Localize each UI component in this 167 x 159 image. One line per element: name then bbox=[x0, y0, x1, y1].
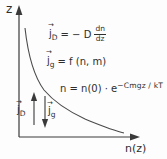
derivative-fraction: dn dz bbox=[94, 25, 106, 43]
down-arrowhead bbox=[42, 119, 48, 128]
flux-subscript: D bbox=[20, 109, 26, 118]
equation-barometric: n = n(0) · e−Cmgz / kT bbox=[60, 81, 163, 94]
y-axis-arrowhead bbox=[16, 5, 23, 15]
vector-arrow-icon: → bbox=[47, 100, 53, 107]
vector-arrow-icon: → bbox=[48, 22, 54, 29]
flux-subscript: g bbox=[50, 60, 55, 69]
barometric-base: n = n(0) · e bbox=[60, 83, 117, 94]
sedimentation-diffusion-diagram: z n(z) →jD = − D dn dz →jg = f (n, m) n … bbox=[0, 0, 167, 159]
vector-arrow-icon: → bbox=[16, 99, 22, 106]
equation-diffusion-flux: →jD = − D dn dz bbox=[49, 25, 106, 43]
diffusion-flux-up-arrow bbox=[31, 92, 37, 125]
x-axis-label: n(z) bbox=[125, 143, 146, 154]
vector-arrow-icon: → bbox=[46, 49, 52, 56]
equation-middle: = − D bbox=[61, 29, 92, 40]
y-axis-label: z bbox=[6, 3, 12, 15]
flux-subscript: g bbox=[51, 110, 56, 119]
equation-rest: = f (n, m) bbox=[58, 56, 107, 67]
vector-j-g: →jg bbox=[48, 105, 56, 119]
x-axis bbox=[19, 134, 140, 141]
flux-subscript: D bbox=[52, 33, 58, 42]
x-axis-arrowhead bbox=[130, 134, 140, 141]
vector-j-D: →jD bbox=[17, 104, 26, 118]
equation-gravitational-flux: →jg = f (n, m) bbox=[47, 54, 106, 69]
fraction-denominator: dz bbox=[96, 35, 105, 44]
vector-j-g: →jg bbox=[47, 54, 55, 69]
up-arrowhead bbox=[31, 92, 37, 101]
barometric-exponent: −Cmgz / kT bbox=[117, 81, 163, 90]
vector-j-D: →jD bbox=[49, 27, 58, 42]
diagram-canvas bbox=[0, 0, 167, 159]
up-arrow-label-jD: →jD bbox=[17, 104, 26, 118]
down-arrow-label-jg: →jg bbox=[48, 105, 56, 119]
